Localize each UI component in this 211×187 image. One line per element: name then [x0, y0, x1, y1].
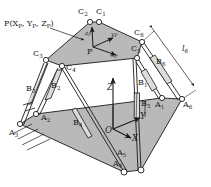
joint-c5	[134, 55, 139, 60]
label-b6: B6	[156, 58, 165, 66]
joint-a5	[138, 167, 144, 173]
label-c6: C6	[134, 29, 144, 37]
label-b2: B2	[51, 82, 60, 90]
label-c4: C4	[66, 64, 76, 72]
dimension-l6-label: l6	[182, 45, 188, 53]
platform-axis-zp-label: zP	[85, 30, 91, 36]
pose-vector-label: P(XP, YP, ZP)	[4, 20, 54, 28]
origin-o-label: O	[105, 126, 112, 135]
platform-axis-yp-label: yP	[111, 31, 117, 37]
joint-a4	[121, 169, 127, 175]
joint-c4	[59, 63, 64, 68]
platform-axis-xp-label: xP	[111, 52, 117, 58]
base-platform	[20, 98, 182, 172]
base-axis-x-label: X	[132, 134, 138, 143]
label-b3: B3	[26, 85, 35, 93]
joint-a3	[17, 121, 22, 126]
label-a5: A5	[117, 149, 126, 157]
label-a1: A1	[155, 101, 164, 109]
label-c3: C3	[33, 50, 43, 58]
moving-platform	[46, 22, 142, 66]
label-a6: A6	[183, 101, 192, 109]
stewart-platform-figure: P(XP, YP, ZP) P zP yP xP Z X Y O l6 C1 C…	[0, 0, 211, 187]
label-b4: B4	[73, 119, 82, 127]
joint-c6	[139, 39, 144, 44]
label-b5: B5	[141, 100, 150, 108]
leg-2	[36, 68, 62, 114]
joint-c3	[43, 57, 48, 62]
label-a3: A3	[9, 129, 18, 137]
joint-a2	[33, 111, 38, 116]
label-c1: C1	[96, 8, 106, 16]
base-axis-z-label: Z	[107, 83, 113, 92]
joint-c2	[87, 19, 92, 24]
label-b1: B1	[138, 79, 147, 87]
point-p-label: P	[87, 48, 92, 56]
label-c5: C5	[131, 45, 141, 53]
label-a4: A4	[113, 160, 122, 168]
joint-c1	[96, 19, 101, 24]
label-c2: C2	[78, 8, 88, 16]
label-a2: A2	[41, 114, 50, 122]
base-axis-y-label: Y	[140, 112, 146, 121]
